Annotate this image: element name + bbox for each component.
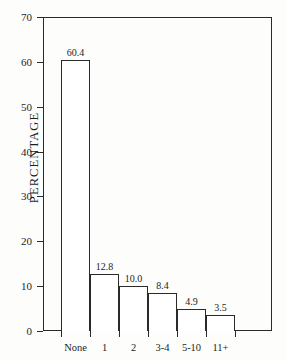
y-axis-tick-label: 60 xyxy=(21,55,32,69)
x-axis-tick xyxy=(206,331,207,337)
bar: 8.4 xyxy=(148,293,177,331)
y-axis-tick-label: 0 xyxy=(27,324,33,338)
bar: 12.8 xyxy=(90,274,119,331)
y-axis-tick-label: 40 xyxy=(21,145,32,159)
x-axis-category-label: 1 xyxy=(102,341,107,354)
y-axis-tick: 10 xyxy=(37,286,43,287)
bar-chart-figure: PERCENTAGE 010203040506070 60.412.810.08… xyxy=(0,0,287,360)
bar-value-label: 60.4 xyxy=(67,47,85,59)
y-axis-tick-label: 20 xyxy=(21,234,32,248)
y-axis-tick-label: 10 xyxy=(21,279,32,293)
x-axis-category-label: None xyxy=(64,341,87,354)
plot-area: 010203040506070 60.412.810.08.44.93.5 No… xyxy=(43,17,272,331)
bar-value-label: 3.5 xyxy=(214,302,227,314)
bar: 10.0 xyxy=(119,286,148,331)
bar-value-label: 8.4 xyxy=(156,280,169,292)
x-axis-tick xyxy=(119,331,120,337)
x-axis-category-label: 11+ xyxy=(212,341,228,354)
x-axis-tick xyxy=(148,331,149,337)
x-axis-tick xyxy=(61,331,62,337)
y-axis-tick-label: 70 xyxy=(21,10,32,24)
y-axis-tick: 70 xyxy=(37,17,43,18)
y-axis-tick: 50 xyxy=(37,107,43,108)
plot-frame-top xyxy=(43,17,272,18)
bar-value-label: 10.0 xyxy=(125,273,143,285)
bar: 3.5 xyxy=(206,315,235,331)
x-axis-tick xyxy=(90,331,91,337)
bar-value-label: 4.9 xyxy=(185,296,198,308)
y-axis-tick-label: 50 xyxy=(21,100,32,114)
x-axis-tick xyxy=(177,331,178,337)
y-axis-tick: 0 xyxy=(37,331,43,332)
y-axis-tick: 30 xyxy=(37,196,43,197)
y-axis-tick: 60 xyxy=(37,62,43,63)
y-axis-line xyxy=(43,17,44,331)
bar: 60.4 xyxy=(61,60,90,331)
y-axis-tick-label: 30 xyxy=(21,189,32,203)
bar-value-label: 12.8 xyxy=(96,261,114,273)
bar: 4.9 xyxy=(177,309,206,331)
y-axis-tick: 20 xyxy=(37,241,43,242)
x-axis-tick xyxy=(235,331,236,337)
y-axis-tick: 40 xyxy=(37,152,43,153)
plot-frame-right xyxy=(271,17,272,331)
x-axis-category-label: 3-4 xyxy=(156,341,170,354)
x-axis-category-label: 2 xyxy=(131,341,136,354)
x-axis-category-label: 5-10 xyxy=(182,341,201,354)
